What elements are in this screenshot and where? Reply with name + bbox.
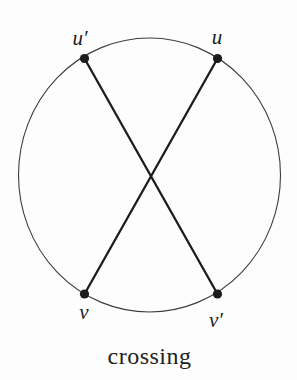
vertex-label-vprime: v′ [209,308,223,332]
vertex-label-v: v [79,300,89,324]
vertex-dot-uprime [80,54,89,63]
vertex-dot-u [213,54,222,63]
figure-canvas: u′ u v v′ crossing [0,0,297,380]
crossing-diagram: u′ u v v′ crossing [0,0,297,380]
vertex-dot-vprime [213,289,222,298]
vertex-label-uprime: u′ [72,26,88,50]
vertex-label-u: u [212,25,223,49]
vertex-dot-v [80,289,89,298]
figure-caption: crossing [108,343,192,369]
